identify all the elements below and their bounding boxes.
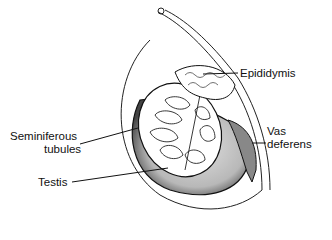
label-epididymis: Epididymis: [240, 67, 296, 79]
label-seminiferous-line1: Seminiferous: [10, 130, 77, 142]
label-seminiferous-line2: tubules: [44, 143, 81, 155]
label-vas-line1: Vas: [267, 125, 286, 137]
label-testis: Testis: [38, 176, 67, 188]
label-vas-line2: deferens: [267, 138, 312, 150]
